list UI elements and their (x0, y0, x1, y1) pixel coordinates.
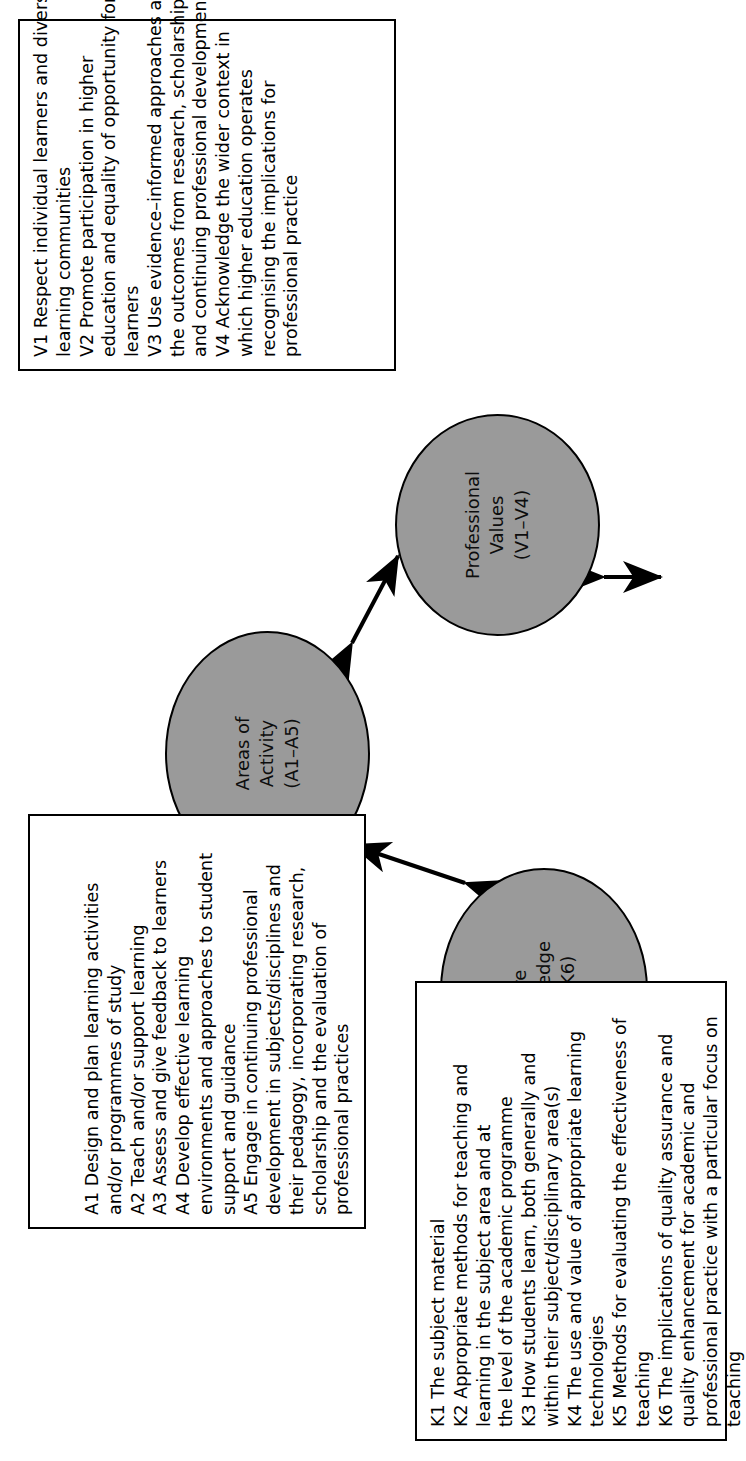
connector-knowledge-areas (352, 845, 465, 883)
textbox-line: and/or programmes of study (105, 965, 125, 1215)
node-label-line: Areas of (231, 717, 255, 791)
textbox-line: A4 Develop effective learning (173, 956, 193, 1215)
node-label-line: Professional (461, 471, 485, 579)
textbox-line: learners (122, 286, 142, 357)
textbox-line: the outcomes from research, scholarship (168, 0, 188, 357)
textbox-line: V4 Acknowledge the wider context in (213, 31, 233, 357)
textbox-line: professional practice (281, 175, 301, 357)
textbox-line: learning in the subject area and at (474, 1125, 494, 1427)
textbox-line: A5 Engage in continuing professional (241, 889, 261, 1215)
node-label-line: Activity (255, 717, 279, 791)
textbox-line: the level of the academic programme (496, 1096, 516, 1427)
textbox-line: learning communities (54, 167, 74, 357)
textbox-areas-of-activity: A1 Design and plan learning activities a… (28, 814, 366, 1229)
textbox-line: V1 Respect individual learners and diver… (31, 0, 51, 357)
textbox-line: A2 Teach and/or support learning (128, 924, 148, 1215)
textbox-line: and continuing professional development (190, 0, 210, 357)
textbox-line: K3 How students learn, both generally an… (519, 1053, 539, 1428)
textbox-line: A3 Assess and give feedback to learners (150, 860, 170, 1215)
node-label-line: Values (485, 471, 509, 579)
textbox-line: V3 Use evidence–informed approaches and (145, 0, 165, 357)
textbox-line: K5 Methods for evaluating the effectiven… (610, 1018, 630, 1427)
textbox-line: V2 Promote participation in higher (77, 56, 97, 357)
node-professional-values[interactable]: Professional Values (V1–V4) (395, 414, 600, 636)
textbox-line: teaching (724, 1351, 744, 1427)
textbox-line: support and guidance (219, 1023, 239, 1215)
textbox-line: which higher education operates (236, 69, 256, 357)
node-label-line: (V1–V4) (510, 471, 534, 579)
textbox-line: K4 The use and value of appropriate lear… (565, 1031, 585, 1427)
textbox-line: K2 Appropriate methods for teaching and (451, 1064, 471, 1427)
textbox-line: their pedagogy, incorporating research, (287, 867, 307, 1215)
textbox-line: professional practices (332, 1024, 352, 1215)
textbox-line: teaching (633, 1351, 653, 1427)
textbox-line: A1 Design and plan learning activities (82, 883, 102, 1215)
textbox-professional-values: V1 Respect individual learners and diver… (18, 19, 396, 371)
connector-areas-values (352, 556, 398, 643)
node-professional-values-label: Professional Values (V1–V4) (461, 471, 534, 579)
textbox-core-knowledge: K1 The subject material K2 Appropriate m… (415, 981, 727, 1441)
textbox-line: within their subject/disciplinary area(s… (542, 1086, 562, 1427)
textbox-line: education and equality of opportunity fo… (99, 0, 119, 357)
textbox-line: recognising the implications for (259, 81, 279, 357)
textbox-line: professional practice with a particular … (701, 1016, 721, 1427)
node-areas-of-activity-label: Areas of Activity (A1–A5) (231, 717, 304, 791)
textbox-line: K1 The subject material (428, 1219, 448, 1427)
textbox-line: K6 The implications of quality assurance… (656, 1034, 676, 1427)
textbox-line: technologies (587, 1315, 607, 1427)
textbox-line: development in subjects/disciplines and (264, 864, 284, 1215)
textbox-line: quality enhancement for academic and (678, 1083, 698, 1428)
node-label-line: (A1–A5) (280, 717, 304, 791)
textbox-line: environments and approaches to student (196, 853, 216, 1215)
textbox-line: scholarship and the evaluation of (310, 923, 330, 1215)
